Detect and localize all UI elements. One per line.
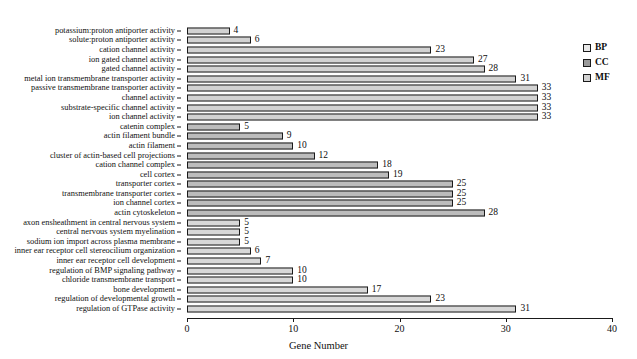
category-tick-mark — [177, 193, 181, 194]
bar — [187, 94, 538, 101]
bar — [187, 200, 453, 207]
bar — [187, 75, 516, 82]
category-tick-mark — [177, 251, 181, 252]
category-label: catenin complex — [120, 123, 175, 131]
category-label: transporter cortex — [116, 180, 175, 188]
bar-value-label: 12 — [319, 151, 329, 161]
category-label-row: central nervous system myelination — [0, 227, 181, 237]
category-tick-mark — [177, 184, 181, 185]
bar — [187, 181, 453, 188]
category-label: cluster of actin-based cell projections — [50, 151, 175, 159]
bar-value-label: 5 — [244, 237, 249, 247]
bar — [187, 46, 431, 53]
category-label: regulation of developmental growth — [55, 295, 175, 303]
category-tick-mark — [177, 289, 181, 290]
category-label: channel activity — [122, 94, 175, 102]
category-tick-mark — [177, 222, 181, 223]
bar-row: 25 — [187, 180, 612, 190]
bar — [187, 66, 485, 73]
category-label-row: regulation of GTPase activity — [0, 304, 181, 314]
bar — [187, 296, 431, 303]
category-label: actin cytoskeleton — [114, 209, 175, 217]
category-label-row: ion gated channel activity — [0, 55, 181, 65]
bar-value-label: 6 — [255, 36, 260, 46]
category-tick-mark — [177, 69, 181, 70]
category-label: cell cortex — [140, 171, 175, 179]
bar-value-label: 27 — [478, 55, 488, 65]
category-label-row: passive transmembrane transporter activi… — [0, 84, 181, 94]
bar-value-label: 28 — [489, 64, 499, 74]
category-tick-mark — [177, 126, 181, 127]
category-label-row: inner ear receptor cell development — [0, 256, 181, 266]
category-label-row: actin filament bundle — [0, 132, 181, 142]
bar-value-label: 18 — [382, 160, 392, 170]
bar — [187, 142, 293, 149]
category-label-row: cell cortex — [0, 170, 181, 180]
category-label-row: catenin complex — [0, 122, 181, 132]
category-tick-mark — [177, 155, 181, 156]
category-label-row: chloride transmembrane transport — [0, 275, 181, 285]
bar-row: 5 — [187, 237, 612, 247]
x-tick-mark — [400, 318, 401, 322]
x-tick-label: 30 — [501, 324, 511, 334]
bar — [187, 171, 389, 178]
bar — [187, 286, 368, 293]
bar — [187, 104, 538, 111]
bar-value-label: 28 — [489, 208, 499, 218]
bar-row: 5 — [187, 218, 612, 228]
category-label-row: ion channel cortex — [0, 199, 181, 209]
x-tick-label: 0 — [185, 324, 190, 334]
bar-row: 23 — [187, 45, 612, 55]
bar-row: 5 — [187, 122, 612, 132]
category-tick-mark — [177, 78, 181, 79]
bar-row: 25 — [187, 189, 612, 199]
bar — [187, 277, 293, 284]
category-tick-mark — [177, 309, 181, 310]
category-label-row: bone development — [0, 285, 181, 295]
bar-value-label: 6 — [255, 247, 260, 257]
bar-row: 10 — [187, 275, 612, 285]
category-tick-mark — [177, 299, 181, 300]
category-tick-mark — [177, 88, 181, 89]
bar-row: 33 — [187, 112, 612, 122]
legend-item-mf[interactable]: MF — [583, 72, 610, 83]
category-label: ion channel activity — [109, 113, 175, 121]
category-label: actin filament — [129, 142, 175, 150]
legend-item-bp[interactable]: BP — [583, 42, 610, 53]
bar — [187, 37, 251, 44]
bar-value-label: 9 — [287, 132, 292, 142]
legend-swatch-icon — [583, 44, 591, 52]
bar-row: 12 — [187, 151, 612, 161]
category-label: passive transmembrane transporter activi… — [31, 84, 175, 92]
bar-value-label: 19 — [393, 170, 403, 180]
bar — [187, 267, 293, 274]
bar-value-label: 25 — [457, 199, 467, 209]
category-label: inner ear receptor cell development — [56, 257, 175, 265]
category-tick-mark — [177, 241, 181, 242]
x-tick-mark — [506, 318, 507, 322]
category-tick-mark — [177, 136, 181, 137]
bar-row: 9 — [187, 132, 612, 142]
category-tick-mark — [177, 165, 181, 166]
bar-value-label: 10 — [297, 141, 307, 151]
category-tick-mark — [177, 232, 181, 233]
bar — [187, 190, 453, 197]
category-label: solute:proton antiporter activity — [69, 36, 175, 44]
bar-row: 6 — [187, 36, 612, 46]
bar — [187, 85, 538, 92]
bar-value-label: 7 — [265, 256, 270, 266]
category-tick-mark — [177, 270, 181, 271]
bar-row: 4 — [187, 26, 612, 36]
bar — [187, 258, 261, 265]
bar — [187, 162, 378, 169]
bar — [187, 123, 240, 130]
category-label: substrate-specific channel activity — [61, 103, 175, 111]
bar-row: 17 — [187, 285, 612, 295]
legend-label: CC — [595, 58, 609, 68]
legend-item-cc[interactable]: CC — [583, 57, 610, 68]
category-label: ion gated channel activity — [89, 55, 175, 63]
category-label: axon ensheathment in central nervous sys… — [23, 218, 175, 226]
category-label-row: sodium ion import across plasma membrane — [0, 237, 181, 247]
x-tick-mark — [293, 318, 294, 322]
category-label: chloride transmembrane transport — [62, 276, 175, 284]
